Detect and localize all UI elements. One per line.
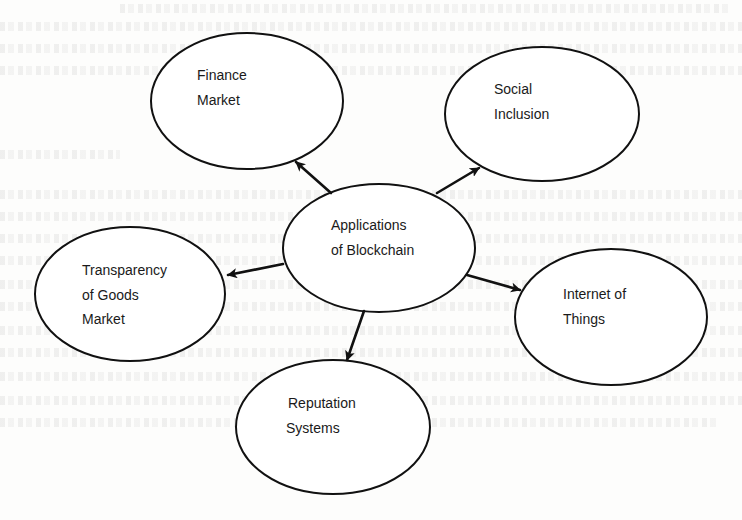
- arrow-to-social-inclusion: [437, 168, 479, 193]
- label-line: of Goods: [82, 283, 167, 308]
- label-line: Internet of: [563, 282, 626, 307]
- label-line: Transparency: [82, 258, 167, 283]
- label-line: Systems: [286, 416, 356, 441]
- arrow-to-finance-market: [296, 162, 331, 193]
- label-line: Social: [494, 77, 549, 102]
- label-line: Inclusion: [494, 102, 549, 127]
- node-label-social-inclusion: Social Inclusion: [494, 77, 549, 126]
- node-ellipse-finance-market: [151, 33, 343, 169]
- diagram-canvas: Finance Market Social Inclusion Applicat…: [0, 0, 742, 520]
- node-label-finance-market: Finance Market: [197, 63, 247, 112]
- label-line: Things: [563, 307, 626, 332]
- arrow-to-transparency-goods-market: [228, 264, 283, 275]
- arrow-to-reputation-systems: [347, 311, 364, 360]
- node-label-reputation-systems: Reputation Systems: [286, 391, 356, 440]
- arrow-to-internet-of-things: [467, 275, 520, 290]
- node-label-transparency-goods-market: Transparency of Goods Market: [82, 258, 167, 332]
- label-line: Market: [197, 88, 247, 113]
- node-label-center: Applications of Blockchain: [331, 213, 414, 262]
- label-line: of Blockchain: [331, 238, 414, 263]
- label-line: Market: [82, 307, 167, 332]
- label-line: Reputation: [286, 391, 356, 416]
- label-line: Finance: [197, 63, 247, 88]
- label-line: Applications: [331, 213, 414, 238]
- node-label-internet-of-things: Internet of Things: [563, 282, 626, 331]
